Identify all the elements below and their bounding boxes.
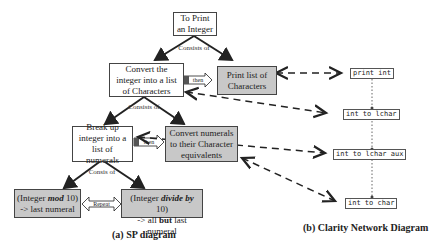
caption-sp-diagram: (a) SP diagram xyxy=(112,229,176,240)
node-print-list-of-characters: Print list of Characters xyxy=(217,66,277,95)
clarity-node-int-to-lchar: int to lchar xyxy=(343,109,400,120)
div-text-but: but xyxy=(159,215,172,225)
clarity-node-int-to-char: int to char xyxy=(345,198,397,209)
then-label-1: then xyxy=(191,76,205,84)
mod-text-line2: -> last numeral xyxy=(20,204,75,214)
repeat-label: Repeat xyxy=(89,200,114,208)
figure: To Print an Integer Consists of Convert … xyxy=(0,0,447,244)
div-text-2: 10) xyxy=(156,204,168,214)
div-text-line2a: -> all xyxy=(137,215,159,225)
div-text-bold: divide by xyxy=(161,193,194,203)
mod-text-bold: mod xyxy=(48,193,64,203)
then-label-2: then xyxy=(141,138,157,146)
consists-of-label-1: Consists of xyxy=(178,44,210,52)
caption-clarity-diagram: (b) Clarity Network Diagram xyxy=(303,222,428,233)
node-to-print-an-integer: To Print an Integer xyxy=(173,12,217,36)
mod-text-2: 10) xyxy=(64,193,78,203)
node-integer-divide-by-10: (Integer divide by 10) -> all but last n… xyxy=(121,189,203,218)
clarity-node-print-int: print int xyxy=(350,68,394,79)
clarity-node-int-to-lchar-aux: int to lchar aux xyxy=(333,149,406,160)
consists-of-label-3: Consis of xyxy=(86,168,118,176)
node-convert-integer-to-chars: Convert the integer into a list of Chara… xyxy=(109,63,184,97)
node-convert-numerals: Convert numerals to their Character equi… xyxy=(165,126,238,162)
mod-text-1: (Integer xyxy=(17,193,48,203)
node-integer-mod-10: (Integer mod 10) -> last numeral xyxy=(14,189,81,218)
consists-of-label-2: Consists of xyxy=(128,103,160,111)
node-break-up-integer: Break up integer into a list of numerals xyxy=(72,126,133,162)
div-text-1: (Integer xyxy=(130,193,161,203)
